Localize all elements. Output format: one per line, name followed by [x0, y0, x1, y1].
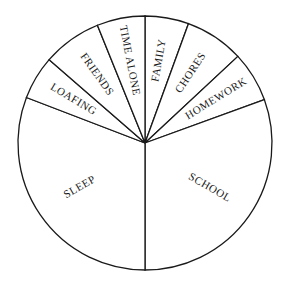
pie-chart: FAMILYCHORESHOMEWORKSCHOOLSLEEPLOAFINGFR… — [0, 0, 284, 285]
pie-slices — [18, 16, 272, 270]
